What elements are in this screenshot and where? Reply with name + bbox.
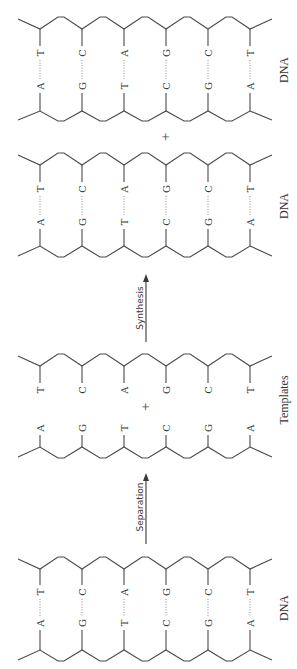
base-bottom: T [119, 424, 130, 431]
base-top: G [161, 386, 172, 394]
base-bottom: A [245, 82, 256, 91]
base-bottom: C [161, 218, 172, 226]
base-top: C [203, 49, 214, 57]
base-top: A [119, 386, 130, 395]
base-bottom: C [161, 619, 172, 627]
block-label: DNA [277, 193, 291, 219]
plus-sign: + [139, 402, 152, 411]
base-bottom: G [203, 619, 214, 627]
base-top: C [77, 49, 88, 57]
base-top: C [77, 185, 88, 193]
backbone-top [18, 153, 272, 165]
base-bottom: G [203, 82, 214, 90]
base-top: T [245, 185, 256, 192]
base-top: C [77, 386, 88, 394]
base-bottom: T [119, 82, 130, 89]
base-top: C [203, 185, 214, 193]
block-label: Templates [277, 375, 291, 424]
block-dna-replicated-2: TACGATGCCGTADNA [18, 153, 291, 257]
base-bottom: G [203, 218, 214, 226]
base-top: G [161, 49, 172, 57]
base-top: C [203, 588, 214, 596]
base-top: T [35, 588, 46, 595]
backbone-bottom [18, 447, 272, 458]
block-dna-replicated-1: TACGATGCCGTADNA [18, 17, 291, 121]
base-bottom: G [203, 424, 214, 432]
base-top: T [245, 49, 256, 56]
base-bottom: G [77, 424, 88, 432]
base-bottom: A [35, 424, 46, 433]
block-label: DNA [277, 57, 291, 83]
separation-arrow: Separation [135, 473, 149, 544]
backbone-bottom [18, 246, 272, 257]
backbone-top [18, 17, 272, 29]
base-bottom: G [77, 619, 88, 627]
base-top: A [119, 49, 130, 58]
block-dna-original: TACGATGCCGTADNA [18, 557, 291, 661]
base-bottom: C [161, 82, 172, 90]
arrow-label: Synthesis [135, 286, 145, 330]
base-bottom: C [161, 424, 172, 432]
base-bottom: G [77, 82, 88, 90]
backbone-top [18, 354, 272, 366]
base-top: C [77, 588, 88, 596]
base-bottom: A [245, 218, 256, 227]
base-top: T [35, 49, 46, 56]
base-top: T [245, 588, 256, 595]
arrow-label: Separation [135, 483, 145, 532]
base-bottom: T [119, 218, 130, 225]
base-top: G [161, 185, 172, 193]
base-top: A [119, 588, 130, 597]
backbone-bottom [18, 650, 272, 661]
base-top: A [119, 185, 130, 194]
synthesis-arrow: Synthesis [135, 274, 149, 342]
arrowhead-icon [143, 274, 149, 282]
base-top: C [203, 386, 214, 394]
base-top: T [245, 386, 256, 393]
plus-sign: + [159, 132, 172, 141]
base-bottom: T [119, 619, 130, 626]
dna-replication-diagram: TACGATGCCGTADNATACGATGCCGTADNATACGATGCCG… [0, 0, 297, 669]
base-bottom: A [35, 82, 46, 91]
base-bottom: A [35, 619, 46, 628]
base-bottom: A [245, 619, 256, 628]
base-top: G [161, 588, 172, 596]
base-bottom: A [35, 218, 46, 227]
backbone-top [18, 557, 272, 569]
base-bottom: G [77, 218, 88, 226]
base-top: T [35, 386, 46, 393]
block-label: DNA [277, 595, 291, 621]
base-bottom: A [245, 424, 256, 433]
arrowhead-icon [143, 473, 149, 481]
strand-blocks: TACGATGCCGTADNATACGATGCCGTADNATACGATGCCG… [18, 17, 291, 661]
block-templates: TACGATGCCGTATemplates [18, 354, 291, 458]
base-top: T [35, 185, 46, 192]
backbone-bottom [18, 111, 272, 121]
